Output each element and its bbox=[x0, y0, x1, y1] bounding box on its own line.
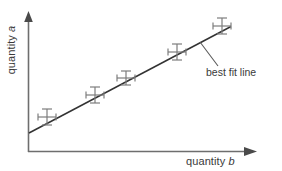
plot-area bbox=[0, 0, 282, 171]
data-point-errorbar bbox=[38, 109, 56, 125]
x-axis-label: quantity b bbox=[186, 155, 235, 167]
data-point-errorbar bbox=[117, 71, 135, 85]
data-point-errorbar bbox=[86, 87, 104, 103]
y-axis-label-text: quantity bbox=[5, 35, 17, 74]
y-axis-label-variable: a bbox=[5, 26, 17, 35]
data-point-errorbar bbox=[213, 18, 231, 34]
callout-leader-line bbox=[200, 42, 218, 66]
y-axis-label: quantity a bbox=[5, 18, 17, 82]
best-fit-line-annotation: best fit line bbox=[206, 66, 256, 78]
x-axis-label-text: quantity bbox=[186, 155, 225, 167]
data-points-group bbox=[38, 18, 231, 125]
figure-container: quantity a quantity b best fit line bbox=[0, 0, 282, 171]
arrow-right-icon bbox=[244, 147, 257, 156]
x-axis-label-variable: b bbox=[225, 155, 234, 167]
arrow-up-icon bbox=[24, 11, 33, 22]
